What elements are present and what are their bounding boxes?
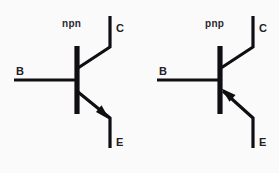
pnp-base-label: B xyxy=(159,65,167,77)
npn-base-label: B xyxy=(16,65,24,77)
npn-type-label: npn xyxy=(62,18,81,29)
npn-collector-label: C xyxy=(116,22,124,34)
pnp-emitter-label: E xyxy=(259,136,266,148)
diagram-background xyxy=(0,0,279,173)
pnp-collector-label: C xyxy=(259,22,267,34)
npn-emitter-label: E xyxy=(116,136,123,148)
pnp-type-label: pnp xyxy=(205,18,224,29)
transistor-symbols-diagram: npn C B E pnp C B E xyxy=(0,0,279,173)
